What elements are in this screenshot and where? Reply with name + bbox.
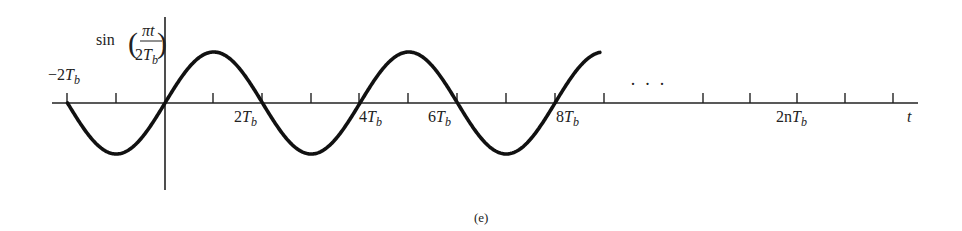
tick-label-2Tb: 2Tb xyxy=(234,108,257,129)
svg-text:): ) xyxy=(157,26,167,60)
x-axis-label: t xyxy=(907,108,912,125)
tick-label-2nTb: 2nTb xyxy=(776,108,807,129)
figure-caption: (e) xyxy=(474,210,488,225)
tick-label-6Tb: 6Tb xyxy=(428,108,451,129)
svg-text:sin: sin xyxy=(96,31,115,48)
tick-label-neg2Tb: −2Tb xyxy=(48,66,80,87)
tick-label-8Tb: 8Tb xyxy=(556,108,579,129)
ellipsis: · · · xyxy=(630,74,667,94)
sine-diagram: · · · sin ( πt 2Tb ) −2Tb 2Tb 4Tb 6Tb 8T… xyxy=(0,0,962,231)
svg-text:2Tb: 2Tb xyxy=(135,46,158,67)
svg-text:πt: πt xyxy=(142,22,155,39)
function-label: sin ( πt 2Tb ) xyxy=(96,22,167,67)
x-ticks xyxy=(67,93,893,103)
tick-label-4Tb: 4Tb xyxy=(359,108,382,129)
